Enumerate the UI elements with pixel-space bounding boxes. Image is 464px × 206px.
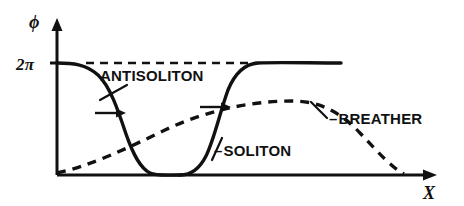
breather-label-dash: – xyxy=(329,110,338,127)
breather-label-text: BREATHER xyxy=(339,110,423,127)
figure-root: ϕ 2π X ANTISOLITON –SOLITON –BREATHER xyxy=(0,0,464,206)
y-axis-arrowhead xyxy=(52,18,63,31)
soliton-label: –SOLITON xyxy=(214,142,291,159)
x-axis-label: X xyxy=(422,183,436,203)
y-axis-label: ϕ xyxy=(29,12,40,32)
x-axis-arrowhead xyxy=(423,170,437,181)
soliton-label-dash: – xyxy=(214,142,223,159)
soliton-antisoliton-breather-plot: ϕ 2π X ANTISOLITON –SOLITON –BREATHER xyxy=(0,0,464,206)
y-tick-label-2pi: 2π xyxy=(15,55,35,74)
antisoliton-label: ANTISOLITON xyxy=(100,67,204,84)
breather-label: –BREATHER xyxy=(329,110,422,127)
soliton-label-text: SOLITON xyxy=(224,142,292,159)
